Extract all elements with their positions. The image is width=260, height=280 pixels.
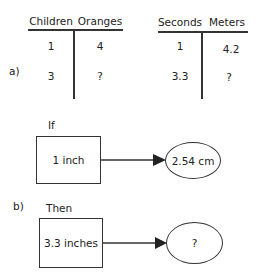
then-box-text: 3.3 inches: [44, 237, 98, 249]
then-result-text: ?: [192, 237, 198, 249]
if-label: If: [48, 119, 55, 131]
then-label: Then: [46, 202, 72, 214]
then-result-ellipse: ?: [166, 222, 223, 264]
then-box: 3.3 inches: [39, 218, 103, 268]
if-box: 1 inch: [36, 136, 101, 184]
if-result-ellipse: 2.54 cm: [165, 142, 221, 179]
if-result-text: 2.54 cm: [172, 155, 215, 167]
if-box-text: 1 inch: [52, 154, 84, 166]
part-b-label: b): [13, 200, 24, 212]
